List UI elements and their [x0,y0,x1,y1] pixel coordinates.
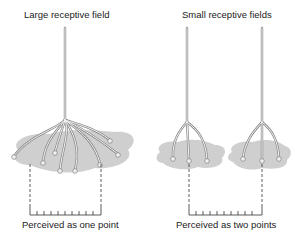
left-caption: Perceived as one point [22,219,119,230]
small-receptive-fields [157,140,291,170]
two-point-caliper-right [189,164,262,215]
right-caption: Perceived as two points [176,219,276,230]
receptive-field-diagram [0,0,295,233]
